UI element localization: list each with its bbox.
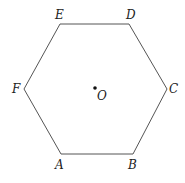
center-label-o: O xyxy=(97,89,107,103)
vertex-label-e: E xyxy=(54,8,64,22)
vertex-label-b: B xyxy=(127,158,137,172)
hexagon-diagram: A B C D E F O xyxy=(0,0,185,183)
vertex-label-a: A xyxy=(54,158,64,172)
vertex-label-f: F xyxy=(11,82,21,96)
vertex-label-c: C xyxy=(169,82,178,96)
vertex-label-d: D xyxy=(125,8,136,22)
